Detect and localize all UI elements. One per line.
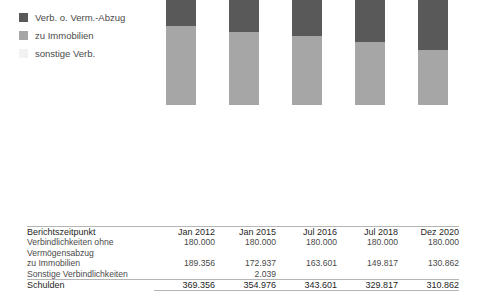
bar-segment-zu-immobilien — [292, 36, 322, 105]
row-value-empty — [398, 248, 459, 259]
row-value: 180.000 — [154, 237, 215, 248]
bar-segment-zu-immobilien — [355, 42, 385, 105]
bar-segment-zu-immobilien — [418, 50, 448, 105]
row-value — [398, 269, 459, 280]
data-table: Berichtszeitpunkt Jan 2012 Jan 2015 Jul … — [27, 226, 459, 291]
bar-segment-verb-o-verm-abzug — [166, 0, 196, 26]
bar-column-jul-2018[interactable] — [355, 0, 385, 105]
total-label: Schulden — [27, 280, 154, 291]
row-value-empty — [154, 248, 215, 259]
table-header-col-0: Jan 2012 — [154, 227, 215, 238]
row-label: zu Immobilien — [27, 258, 154, 269]
total-value: 310.862 — [398, 280, 459, 291]
table-header-col-2: Jul 2016 — [276, 227, 337, 238]
table-total-row: Schulden 369.356 354.976 343.601 329.817… — [27, 280, 459, 291]
row-value — [276, 269, 337, 280]
table-header-col-4: Dez 2020 — [398, 227, 459, 238]
bar-segment-verb-o-verm-abzug — [355, 0, 385, 42]
bar-segment-verb-o-verm-abzug — [292, 0, 322, 36]
row-label: Sonstige Verbindlichkeiten — [27, 269, 154, 280]
data-table-wrapper: Berichtszeitpunkt Jan 2012 Jan 2015 Jul … — [27, 226, 459, 291]
row-value: 180.000 — [276, 237, 337, 248]
row-value-empty — [337, 248, 398, 259]
bar-segment-zu-immobilien — [229, 32, 259, 105]
row-value-empty — [215, 248, 276, 259]
row-value — [337, 269, 398, 280]
row-value: 180.000 — [398, 237, 459, 248]
row-value: 180.000 — [337, 237, 398, 248]
table-header-label: Berichtszeitpunkt — [27, 227, 154, 238]
row-label-continuation: Vermögensabzug — [27, 248, 154, 259]
bar-segment-verb-o-verm-abzug — [418, 0, 448, 50]
bar-column-dez-2020[interactable] — [418, 0, 448, 105]
chart-page: Verb. o. Verm.-Abzug zu Immobilien sonst… — [0, 0, 481, 307]
table-row: Sonstige Verbindlichkeiten 2.039 — [27, 269, 459, 280]
row-value: 2.039 — [215, 269, 276, 280]
row-label: Verbindlichkeiten ohne — [27, 237, 154, 248]
table-row-continuation: Vermögensabzug — [27, 248, 459, 259]
bar-segment-zu-immobilien — [166, 26, 196, 105]
row-value: 180.000 — [215, 237, 276, 248]
bar-column-jul-2016[interactable] — [292, 0, 322, 105]
row-value: 163.601 — [276, 258, 337, 269]
total-value: 369.356 — [154, 280, 215, 291]
bar-column-jan-2015[interactable] — [229, 0, 259, 105]
bar-column-jan-2012[interactable] — [166, 0, 196, 105]
table-row: Verbindlichkeiten ohne 180.000 180.000 1… — [27, 237, 459, 248]
table-row: zu Immobilien 189.356 172.937 163.601 14… — [27, 258, 459, 269]
stacked-bar-plot — [0, 0, 481, 215]
table-header-col-1: Jan 2015 — [215, 227, 276, 238]
total-value: 343.601 — [276, 280, 337, 291]
row-value: 149.817 — [337, 258, 398, 269]
total-value: 354.976 — [215, 280, 276, 291]
table-header-col-3: Jul 2018 — [337, 227, 398, 238]
row-value — [154, 269, 215, 280]
row-value: 172.937 — [215, 258, 276, 269]
row-value-empty — [276, 248, 337, 259]
table-header-row: Berichtszeitpunkt Jan 2012 Jan 2015 Jul … — [27, 227, 459, 238]
row-value: 189.356 — [154, 258, 215, 269]
bar-segment-verb-o-verm-abzug — [229, 0, 259, 32]
row-value: 130.862 — [398, 258, 459, 269]
total-value: 329.817 — [337, 280, 398, 291]
